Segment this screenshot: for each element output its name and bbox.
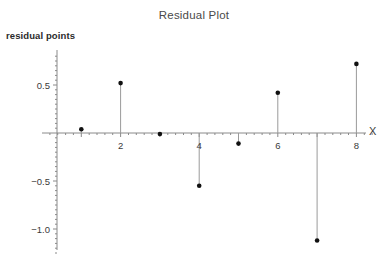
x-tick-label: 8 — [354, 140, 359, 151]
y-tick-label: −0.5 — [31, 176, 50, 187]
y-tick-labels: 0.5−0.5−1.0 — [31, 80, 50, 235]
y-tick-label: −1.0 — [31, 224, 50, 235]
plot-canvas: 0.5−0.5−1.0 2468 — [0, 0, 388, 264]
data-point — [315, 238, 320, 243]
x-tick-label: 2 — [118, 140, 123, 151]
data-point — [118, 81, 123, 86]
y-axis-ticks — [53, 56, 57, 253]
residual-plot-figure: Residual Plot residual points X 0.5−0.5−… — [0, 0, 388, 264]
data-point — [354, 62, 359, 67]
x-tick-label: 4 — [197, 140, 202, 151]
x-axis-group — [42, 133, 372, 137]
y-tick-label: 0.5 — [37, 80, 50, 91]
x-tick-label: 6 — [275, 140, 280, 151]
data-point — [236, 141, 241, 146]
data-point — [197, 184, 202, 189]
data-point — [276, 90, 281, 95]
stem-lines — [81, 64, 356, 241]
x-axis-ticks — [50, 133, 372, 137]
data-point — [158, 132, 163, 137]
data-point — [79, 127, 84, 132]
y-axis-group — [53, 50, 57, 253]
